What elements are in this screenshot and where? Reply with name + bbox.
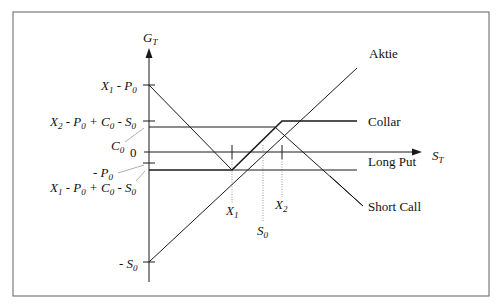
label-x1-minus-p0: X1 - P0 bbox=[100, 78, 137, 95]
label-x2: X2 bbox=[274, 197, 288, 214]
line-short-call bbox=[149, 127, 363, 206]
y-axis-label: GT bbox=[143, 30, 158, 47]
leader-minus-p0 bbox=[118, 165, 144, 173]
legend-aktie: Aktie bbox=[369, 46, 398, 61]
label-c0: C0 bbox=[111, 138, 125, 155]
y-axis-arrow-icon bbox=[146, 48, 153, 58]
label-s0: S0 bbox=[257, 223, 269, 240]
label-minus-s0: - S0 bbox=[119, 256, 138, 273]
legend-collar: Collar bbox=[368, 114, 401, 129]
legend-long-put: Long Put bbox=[368, 154, 416, 169]
legend-short-call: Short Call bbox=[368, 199, 421, 214]
label-x2-collar: X2 - P0 + C0 - S0 bbox=[49, 114, 137, 131]
origin-label: 0 bbox=[130, 145, 137, 160]
collar-payoff-diagram: GT ST 0 X1 - P0 X2 - P0 + C0 - S0 C0 - P… bbox=[0, 0, 499, 307]
line-aktie bbox=[149, 68, 357, 262]
diagram-frame bbox=[13, 12, 489, 296]
x-axis-label: ST bbox=[432, 148, 445, 165]
line-collar bbox=[149, 121, 357, 170]
line-short-call-ext bbox=[330, 176, 363, 206]
leader-x1-collar bbox=[136, 171, 145, 181]
label-x1: X1 bbox=[225, 203, 238, 220]
label-x1-collar: X1 - P0 + C0 - S0 bbox=[49, 180, 137, 197]
